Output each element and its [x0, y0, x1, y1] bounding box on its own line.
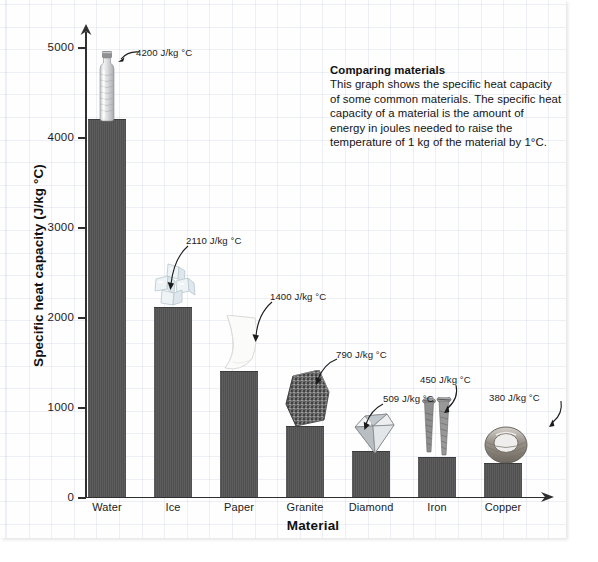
plot-area: 5000 4000 3000 2000 1000 0 Specific heat… [0, 0, 598, 562]
y-axis-line [85, 32, 87, 498]
y-axis-arrow-icon [79, 24, 93, 38]
bar-copper[interactable] [484, 463, 522, 498]
infobox-title: Comparing materials [330, 64, 562, 76]
x-cat-label-diamond: Diamond [346, 501, 396, 513]
annotation-label-copper: 380 J/kg °C [489, 392, 540, 403]
y-tick-4000 [78, 137, 86, 139]
annotation-arrow-copper [543, 400, 565, 432]
y-tick-1000 [78, 407, 86, 409]
bar-diamond[interactable] [352, 451, 390, 498]
y-tick-2000 [78, 317, 86, 319]
chart-page: 5000 4000 3000 2000 1000 0 Specific heat… [0, 0, 598, 562]
x-axis-line [85, 497, 548, 499]
annotation-arrow-iron [432, 384, 460, 418]
y-tick-label-0: 0 [26, 491, 74, 503]
x-cat-label-paper: Paper [214, 501, 264, 513]
y-axis-title: Specific heat capacity (J/kg °C) [31, 116, 46, 416]
bar-water[interactable] [88, 119, 126, 498]
x-cat-label-water: Water [82, 501, 132, 513]
x-axis-arrow-icon [541, 490, 556, 504]
x-cat-label-granite: Granite [280, 501, 330, 513]
annotation-arrow-ice [162, 244, 192, 292]
annotation-arrow-water [110, 48, 140, 66]
x-axis-title: Material [85, 518, 541, 533]
annotation-arrow-granite [308, 357, 340, 389]
bar-ice[interactable] [154, 307, 192, 498]
y-tick-5000 [78, 47, 86, 49]
annotation-label-paper: 1400 J/kg °C [270, 291, 326, 302]
bar-granite[interactable] [286, 426, 324, 498]
infobox: Comparing materials This graph shows the… [330, 64, 562, 150]
x-cat-label-ice: Ice [148, 501, 198, 513]
annotation-label-granite: 790 J/kg °C [336, 349, 387, 360]
copper-coil-image [483, 424, 529, 466]
annotation-arrow-diamond [358, 402, 386, 434]
infobox-body: This graph shows the specific heat capac… [330, 77, 562, 150]
annotation-label-diamond: 509 J/kg °C [383, 393, 434, 404]
annotation-label-water: 4200 J/kg °C [136, 47, 192, 58]
bar-iron[interactable] [418, 457, 456, 499]
x-cat-label-iron: Iron [412, 501, 462, 513]
y-tick-label-5000: 5000 [26, 41, 74, 53]
x-cat-label-copper: Copper [478, 501, 528, 513]
annotation-label-ice: 2110 J/kg °C [186, 235, 242, 246]
bar-paper[interactable] [220, 371, 258, 498]
y-tick-3000 [78, 227, 86, 229]
annotation-arrow-paper [245, 300, 275, 344]
